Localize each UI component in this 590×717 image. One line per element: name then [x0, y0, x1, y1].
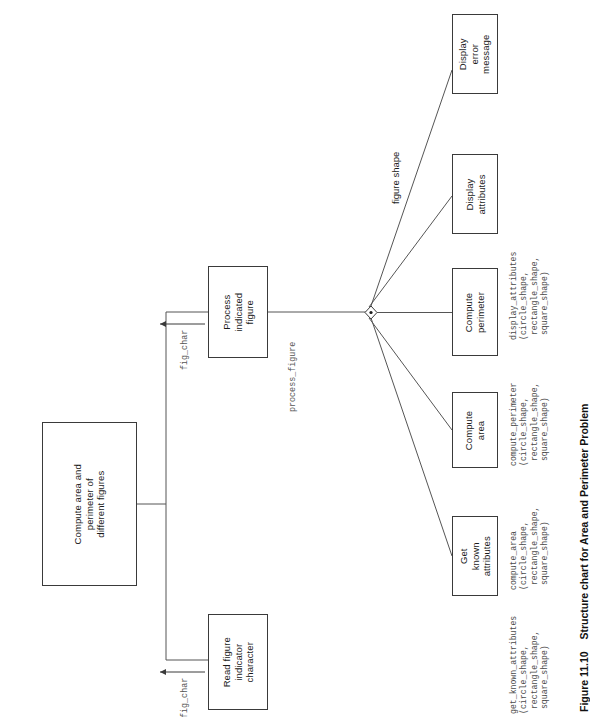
module-box-root: Compute area and perimeter of different … [42, 422, 137, 586]
figure-caption: Figure 11.10 Structure chart for Area an… [578, 404, 590, 712]
module-box-display-error: Display error message [452, 14, 498, 94]
annotation-display-attributes: display_attributes (circle_shape, rectan… [509, 252, 551, 340]
figure-caption-text: Structure chart for Area and Perimeter P… [578, 404, 590, 640]
module-label-display-error: Display error message [458, 34, 493, 73]
annotation-compute-perimeter: compute_perimeter (circle_shape, rectang… [509, 382, 551, 466]
module-label-display-attributes: Display attributes [463, 174, 486, 214]
flow-label-figure-shape: figure shape [390, 152, 401, 204]
module-label-compute-perimeter: Compute perimeter [464, 291, 487, 332]
module-box-get-known-attributes: Get known attributes [452, 516, 498, 596]
module-label-compute-area: Compute area [464, 410, 487, 449]
module-box-process-figure: Process indicated figure [208, 266, 268, 358]
module-box-read-figure: Read figure indicator character [208, 614, 268, 710]
module-box-display-attributes: Display attributes [452, 154, 498, 234]
module-label-get-known-attributes: Get known attributes [458, 536, 493, 576]
flow-label-fig-char-process: fig_char [180, 330, 190, 370]
structure-chart-figure: Compute area and perimeter of different … [0, 0, 590, 717]
annotation-get-known-attributes: get_known_attributes (circle_shape, rect… [509, 616, 551, 714]
annotation-compute-area: compute_area (circle_shape, rectangle_sh… [509, 506, 551, 590]
module-box-compute-perimeter: Compute perimeter [452, 268, 498, 356]
module-box-compute-area: Compute area [452, 392, 498, 468]
module-label-root: Compute area and perimeter of different … [72, 464, 107, 544]
flow-label-fig-char-read: fig_char [180, 678, 190, 717]
flow-label-process-figure-call: process_figure [288, 342, 298, 412]
figure-caption-number: Figure 11.10 [578, 651, 590, 712]
module-label-read-figure: Read figure indicator character [221, 637, 256, 687]
module-label-process-figure: Process indicated figure [221, 293, 256, 332]
